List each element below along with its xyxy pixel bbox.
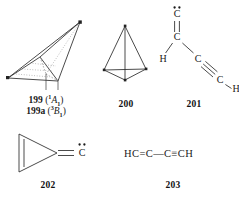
exocyclic-carbene-lone-pair-dots <box>78 143 85 145</box>
formula-token-c1: C <box>146 148 153 159</box>
structure-201-number: 201 <box>176 99 212 109</box>
structure-202-drawing: C <box>12 131 96 177</box>
atom-c-exocyclic-carbene: C <box>79 147 86 158</box>
bond-single-c2-h1 <box>166 43 173 53</box>
structure-199a-state-triplet: 199a (3B1) <box>0 106 92 117</box>
axis-drop-line <box>46 74 58 90</box>
atom-c-sp2: C <box>174 31 181 42</box>
structure-201-figure: C C H C C H <box>160 2 239 90</box>
structure-201-drawing: C C H C C H <box>160 2 239 90</box>
bond-single-c2-c3 <box>182 43 193 53</box>
atom-h-left: H <box>159 53 166 64</box>
structure-200-drawing <box>98 22 154 88</box>
structure-202-number: 202 <box>30 180 66 190</box>
atom-c-carbene: C <box>174 8 181 19</box>
cyclopropene-ring <box>19 134 57 172</box>
formula-token-hc: HC <box>124 148 139 159</box>
structure-199-state-singlet: 199 (1A1) <box>0 95 92 106</box>
structure-199-labels: 199 (1A1) 199a (3B1) <box>0 95 92 117</box>
exocyclic-double-bond <box>58 151 74 156</box>
wireframe-edges <box>8 22 80 81</box>
structure-200-figure <box>98 22 154 88</box>
formula-token-single-bond: — <box>153 148 164 159</box>
atom-h-right: H <box>232 83 239 94</box>
formula-token-ch: CH <box>178 148 193 159</box>
bond-triple-c3-c4 <box>201 61 217 77</box>
structure-203-formula: HC=C—C≡CH <box>124 148 193 159</box>
structure-203-number: 203 <box>155 180 191 190</box>
bond-single-c4-h2 <box>225 85 231 89</box>
atom-c-sp-b: C <box>217 74 224 85</box>
atom-c-sp-a: C <box>195 53 202 64</box>
tetrahedron-edges <box>104 26 146 80</box>
structure-199-number: 199 <box>29 95 43 105</box>
structure-199a-number: 199a <box>26 106 45 116</box>
structure-202-figure: C <box>12 131 96 177</box>
structure-200-number: 200 <box>108 99 144 109</box>
structure-199-drawing <box>0 8 95 90</box>
structure-199-figure <box>0 8 95 90</box>
